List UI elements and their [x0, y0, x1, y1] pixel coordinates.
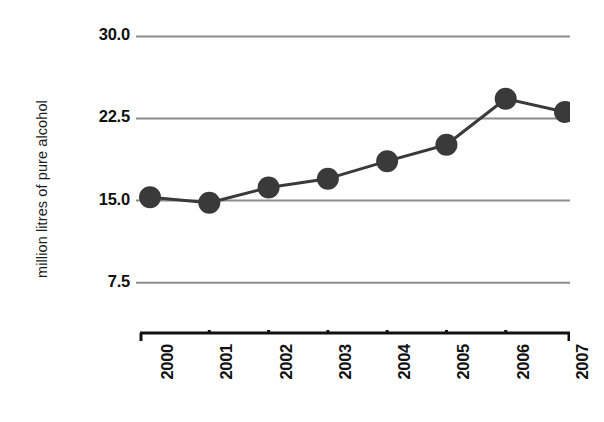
data-point-marker[interactable] — [435, 134, 457, 156]
y-tick-label-7-5: 7.5 — [50, 272, 130, 291]
plot-area — [136, 20, 570, 310]
data-point-marker[interactable] — [554, 101, 570, 123]
data-point-marker[interactable] — [139, 186, 161, 208]
x-tick-label-2004: 2004 — [395, 344, 413, 416]
data-markers — [139, 88, 570, 214]
data-point-marker[interactable] — [376, 150, 398, 172]
plot-svg — [136, 20, 570, 310]
line-chart: million litres of pure alcohol 30.0 22.5… — [0, 0, 604, 422]
gridlines — [136, 36, 570, 282]
data-point-marker[interactable] — [198, 192, 220, 214]
data-point-marker[interactable] — [495, 88, 517, 110]
y-axis-tick-labels: 30.0 22.5 15.0 7.5 — [48, 0, 130, 422]
data-point-marker[interactable] — [258, 176, 280, 198]
x-tick-label-2002: 2002 — [277, 344, 295, 416]
y-tick-label-22-5: 22.5 — [50, 107, 130, 126]
series-line — [150, 99, 565, 203]
x-axis-tick-labels: 20002001200220032004200520062007 — [136, 344, 570, 416]
y-tick-label-30: 30.0 — [50, 25, 130, 44]
x-tick-label-2005: 2005 — [454, 344, 472, 416]
x-tick-label-2003: 2003 — [336, 344, 354, 416]
data-point-marker[interactable] — [317, 168, 339, 190]
y-tick-label-15: 15.0 — [50, 190, 130, 209]
x-tick-label-2001: 2001 — [217, 344, 235, 416]
x-tick-label-2000: 2000 — [158, 344, 176, 416]
data-line — [150, 99, 565, 203]
x-axis — [136, 330, 570, 344]
x-tick-label-2007: 2007 — [573, 344, 591, 416]
x-axis-svg — [136, 330, 570, 344]
x-tick-label-2006: 2006 — [514, 344, 532, 416]
